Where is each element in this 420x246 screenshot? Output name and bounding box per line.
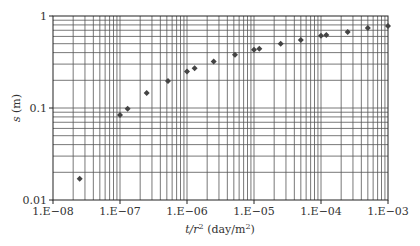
x-tick-label: 1.E−07 — [99, 205, 141, 218]
diamond-marker — [318, 33, 324, 39]
diamond-marker — [323, 32, 329, 38]
x-tick-labels: 1.E−081.E−071.E−061.E−051.E−041.E−03 — [32, 205, 409, 218]
diamond-marker — [144, 90, 150, 96]
grid-lines — [53, 16, 388, 200]
diamond-marker — [211, 59, 217, 65]
diamond-marker — [184, 68, 190, 74]
diamond-marker — [256, 46, 262, 52]
x-tick-label: 1.E−04 — [300, 205, 342, 218]
x-tick-label: 1.E−03 — [367, 205, 409, 218]
y-tick-label: 0.1 — [30, 102, 48, 115]
x-axis-label: t/r2 (day/m2) — [185, 222, 255, 236]
y-axis-label: s (m) — [10, 94, 23, 122]
y-tick-label: 0.01 — [23, 194, 48, 207]
y-tick-label: 1 — [40, 10, 47, 23]
drawdown-loglog-chart: 1.E−081.E−071.E−061.E−051.E−041.E−03 0.0… — [0, 0, 420, 246]
diamond-marker — [385, 23, 391, 29]
diamond-marker — [125, 106, 131, 112]
y-tick-labels: 0.010.11 — [23, 10, 48, 207]
diamond-marker — [77, 176, 83, 182]
diamond-marker — [251, 47, 257, 53]
diamond-marker — [278, 41, 284, 47]
diamond-marker — [192, 65, 198, 71]
x-tick-label: 1.E−06 — [166, 205, 208, 218]
diamond-marker — [298, 37, 304, 43]
diamond-marker — [165, 78, 171, 84]
x-tick-label: 1.E−05 — [233, 205, 275, 218]
